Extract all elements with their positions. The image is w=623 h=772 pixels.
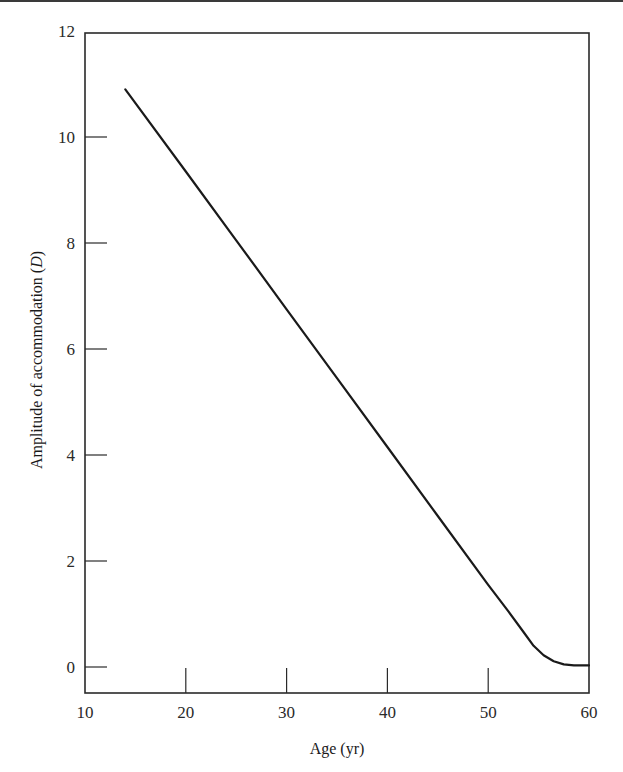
x-tick-label: 10 bbox=[77, 703, 94, 722]
accommodation-curve bbox=[125, 89, 589, 665]
x-tick-label: 60 bbox=[581, 703, 598, 722]
data-series bbox=[125, 89, 589, 665]
x-tick-label: 20 bbox=[177, 703, 194, 722]
y-tick-label: 6 bbox=[67, 340, 76, 359]
y-tick-label: 4 bbox=[67, 446, 76, 465]
y-axis-label-close: ) bbox=[28, 251, 46, 256]
x-axis-ticks: 102030405060 bbox=[77, 668, 598, 722]
x-axis-label: Age (yr) bbox=[310, 740, 365, 758]
y-axis-label-unit: D bbox=[28, 256, 45, 269]
plot-frame bbox=[85, 33, 589, 693]
x-tick-label: 30 bbox=[278, 703, 295, 722]
y-tick-label: 0 bbox=[67, 658, 76, 677]
y-tick-label: 2 bbox=[67, 552, 76, 571]
y-tick-label: 8 bbox=[67, 234, 76, 253]
x-tick-label: 50 bbox=[480, 703, 497, 722]
plot-border bbox=[85, 33, 589, 693]
y-axis-label: Amplitude of accommodation (D) bbox=[28, 251, 46, 469]
y-axis-label-main: Amplitude of accommodation ( bbox=[28, 268, 46, 469]
accommodation-chart: 024681012 102030405060 Age (yr) Amplitud… bbox=[0, 0, 623, 772]
y-tick-label: 10 bbox=[58, 128, 75, 147]
x-tick-label: 40 bbox=[379, 703, 396, 722]
y-tick-label: 12 bbox=[58, 22, 75, 41]
y-axis-ticks: 024681012 bbox=[58, 22, 107, 677]
